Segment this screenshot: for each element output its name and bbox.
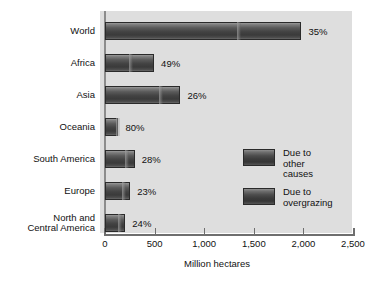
bar-percent-label: 80% [125,122,144,133]
chart-figure: 05001,0001,5002,0002,500 WorldAfricaAsia… [0,0,388,286]
x-tick-mark [204,228,205,235]
legend-label: Due to other causes [283,148,313,180]
bar-segment-divider [116,118,120,136]
bar-total [105,22,301,40]
category-label: Africa [0,58,95,69]
bar-segment-divider [159,86,163,104]
x-tick-label: 1,500 [242,238,266,249]
bar-row [105,150,135,168]
bar-row [105,54,154,72]
x-tick-mark [353,228,355,236]
x-tick-label: 0 [102,238,107,249]
x-tick-label: 500 [147,238,163,249]
bar-segment-divider [125,150,129,168]
bar-row [105,22,301,40]
bar-segment-divider [122,182,126,200]
x-tick-mark [303,228,304,235]
x-tick-label: 2,000 [292,238,316,249]
bar-total [105,182,130,200]
x-tick-mark [254,228,255,235]
bar-percent-label: 26% [187,90,206,101]
x-tick-mark [155,228,156,235]
bar-segment-divider [129,54,133,72]
bar-row [105,214,125,232]
bar-row [105,86,180,104]
category-label: World [0,26,95,37]
x-axis-title: Million hectares [0,258,388,269]
category-label: Oceania [0,122,95,133]
bar-row [105,118,118,136]
category-label: Europe [0,186,95,197]
x-tick-label: 2,500 [341,238,365,249]
bar-percent-label: 28% [142,154,161,165]
bar-percent-label: 23% [137,186,156,197]
legend-swatch [243,188,275,205]
category-label: South America [0,154,95,165]
bar-segment-divider [237,22,241,40]
legend-swatch [243,149,275,166]
bar-percent-label: 35% [308,26,327,37]
category-label: North and Central America [0,213,95,234]
legend-label: Due to overgrazing [283,187,333,208]
bar-percent-label: 24% [132,218,151,229]
x-tick-label: 1,000 [192,238,216,249]
bar-row [105,182,130,200]
x-axis-line [104,234,353,236]
bar-segment-divider [118,214,122,232]
category-label: Asia [0,90,95,101]
bar-total [105,86,180,104]
bar-total [105,150,135,168]
bar-percent-label: 49% [161,58,180,69]
